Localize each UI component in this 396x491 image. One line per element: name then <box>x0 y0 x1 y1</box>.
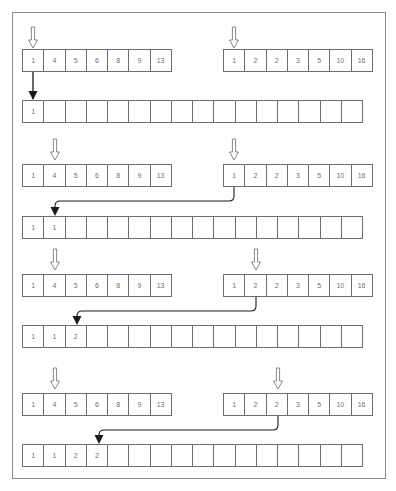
left-cell: 4 <box>43 274 65 297</box>
left-cell: 9 <box>128 393 150 416</box>
right-cell: 2 <box>266 164 288 187</box>
merged-cell <box>341 325 363 348</box>
left-cell: 8 <box>107 393 129 416</box>
right-array-step-3: 1 2 2 3 5 10 16 <box>223 274 373 297</box>
left-cell: 6 <box>86 49 108 72</box>
right-cell: 1 <box>223 164 245 187</box>
merged-cell <box>341 444 363 467</box>
merged-cell <box>235 325 257 348</box>
right-cell: 16 <box>351 393 373 416</box>
right-cell: 5 <box>308 49 330 72</box>
merged-cell <box>213 325 235 348</box>
left-cell: 1 <box>22 393 44 416</box>
merged-cell <box>298 325 320 348</box>
merged-cell <box>150 325 172 348</box>
merged-cell <box>320 325 342 348</box>
merged-cell <box>256 444 278 467</box>
merged-cell <box>256 325 278 348</box>
merged-cell <box>277 325 299 348</box>
left-array-step-1: 1 4 5 6 8 9 13 <box>22 49 172 72</box>
left-cell: 6 <box>86 393 108 416</box>
right-cell: 16 <box>351 164 373 187</box>
merged-cell <box>107 325 129 348</box>
left-array-step-2: 1 4 5 6 8 9 13 <box>22 164 172 187</box>
merged-cell <box>86 100 108 123</box>
right-cell: 1 <box>223 274 245 297</box>
merged-cell <box>192 100 214 123</box>
merged-cell <box>320 100 342 123</box>
left-array-step-3: 1 4 5 6 8 9 13 <box>22 274 172 297</box>
merged-cell: 1 <box>22 325 44 348</box>
right-cell: 10 <box>329 274 351 297</box>
merged-cell <box>107 100 129 123</box>
merged-cell <box>192 444 214 467</box>
right-cell: 3 <box>287 49 309 72</box>
right-cell: 16 <box>351 274 373 297</box>
merged-cell <box>128 444 150 467</box>
merged-cell: 1 <box>22 100 44 123</box>
merged-cell <box>298 100 320 123</box>
left-cell: 13 <box>150 49 172 72</box>
merged-cell <box>235 100 257 123</box>
right-cell: 3 <box>287 164 309 187</box>
merged-cell <box>128 216 150 239</box>
right-cell: 1 <box>223 49 245 72</box>
merged-cell: 2 <box>86 444 108 467</box>
left-cell: 1 <box>22 49 44 72</box>
left-cell: 5 <box>65 393 87 416</box>
right-cell: 1 <box>223 393 245 416</box>
merged-cell <box>341 100 363 123</box>
merged-array-step-3: 1 1 2 <box>22 325 363 348</box>
merged-cell <box>213 100 235 123</box>
merged-cell <box>150 216 172 239</box>
left-cell: 5 <box>65 274 87 297</box>
merged-cell <box>171 444 193 467</box>
right-array-step-1: 1 2 2 3 5 10 16 <box>223 49 373 72</box>
merged-cell <box>171 216 193 239</box>
right-cell: 2 <box>244 164 266 187</box>
right-cell: 3 <box>287 274 309 297</box>
merged-cell: 2 <box>65 444 87 467</box>
left-cell: 4 <box>43 49 65 72</box>
merged-cell: 1 <box>43 325 65 348</box>
left-cell: 1 <box>22 274 44 297</box>
merged-cell <box>128 325 150 348</box>
merged-cell: 1 <box>22 216 44 239</box>
merged-cell <box>213 216 235 239</box>
right-cell: 5 <box>308 274 330 297</box>
merged-cell: 2 <box>65 325 87 348</box>
left-cell: 4 <box>43 393 65 416</box>
left-cell: 8 <box>107 164 129 187</box>
right-cell: 10 <box>329 49 351 72</box>
right-cell: 16 <box>351 49 373 72</box>
merged-cell <box>277 444 299 467</box>
merged-cell <box>320 216 342 239</box>
merged-cell <box>65 100 87 123</box>
right-array-step-2: 1 2 2 3 5 10 16 <box>223 164 373 187</box>
merged-cell <box>341 216 363 239</box>
merged-cell <box>277 216 299 239</box>
merged-cell: 1 <box>22 444 44 467</box>
merged-cell <box>235 216 257 239</box>
right-array-step-4: 1 2 2 3 5 10 16 <box>223 393 373 416</box>
left-cell: 1 <box>22 164 44 187</box>
right-cell: 2 <box>266 274 288 297</box>
merged-cell <box>298 444 320 467</box>
merged-cell <box>107 216 129 239</box>
merged-cell <box>86 325 108 348</box>
right-cell: 2 <box>244 274 266 297</box>
merged-array-step-2: 1 1 <box>22 216 363 239</box>
merged-cell <box>150 100 172 123</box>
merged-cell: 1 <box>43 216 65 239</box>
merged-cell <box>235 444 257 467</box>
left-cell: 13 <box>150 274 172 297</box>
merged-cell <box>171 325 193 348</box>
left-cell: 5 <box>65 164 87 187</box>
left-cell: 6 <box>86 164 108 187</box>
merged-cell <box>65 216 87 239</box>
merged-cell <box>256 100 278 123</box>
merged-cell <box>43 100 65 123</box>
merged-cell <box>86 216 108 239</box>
merged-cell <box>128 100 150 123</box>
left-cell: 13 <box>150 393 172 416</box>
